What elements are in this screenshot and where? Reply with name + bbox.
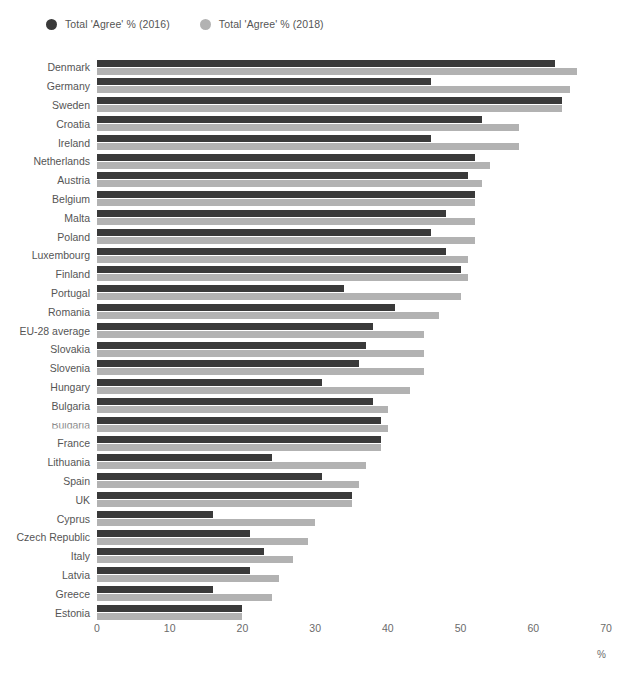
chart-row: Malta [0, 208, 626, 227]
bar-2016 [97, 60, 555, 67]
bar-2016 [97, 266, 461, 273]
bar-2018 [97, 368, 424, 375]
bar-2018 [97, 105, 562, 112]
bar-2018 [97, 86, 570, 93]
chart-row: Spain [0, 472, 626, 491]
bar-group [97, 454, 626, 470]
bar-2016 [97, 342, 366, 349]
bar-2018 [97, 143, 519, 150]
bar-group [97, 191, 626, 207]
chart-row: Denmark [0, 58, 626, 77]
category-label: Spain [63, 476, 90, 487]
chart-row: Ireland [0, 133, 626, 152]
bar-group [97, 172, 626, 188]
bar-group [97, 567, 626, 583]
bar-group [97, 304, 626, 320]
legend-entry-2016: Total 'Agree' % (2016) [46, 18, 170, 30]
bar-group [97, 248, 626, 264]
bar-group [97, 266, 626, 282]
category-label: Ireland [58, 137, 90, 148]
bar-2016 [97, 304, 395, 311]
bar-2016 [97, 360, 359, 367]
bar-2018 [97, 331, 424, 338]
bar-group [97, 492, 626, 508]
chart-row: Bulgaria [0, 415, 626, 434]
category-label: EU-28 average [19, 325, 90, 336]
bar-2016 [97, 154, 475, 161]
bar-group [97, 398, 626, 414]
bar-2016 [97, 379, 322, 386]
bar-2016 [97, 436, 381, 443]
bar-2016 [97, 398, 373, 405]
x-axis: 010203040506070 [0, 622, 626, 642]
chart-row: Estonia [0, 603, 626, 622]
bar-chart-plot-area: DenmarkGermanySwedenCroatiaIrelandNether… [0, 48, 626, 676]
category-label: Cyprus [57, 513, 90, 524]
chart-row: Austria [0, 171, 626, 190]
bar-2018 [97, 613, 242, 620]
chart-row: Belgium [0, 190, 626, 209]
bar-2016 [97, 210, 446, 217]
bar-group [97, 210, 626, 226]
chart-row: Greece [0, 584, 626, 603]
chart-row: Slovenia [0, 359, 626, 378]
bar-2018 [97, 575, 279, 582]
bar-2016 [97, 229, 431, 236]
bar-2018 [97, 199, 475, 206]
bar-group [97, 605, 626, 621]
bar-2018 [97, 274, 468, 281]
chart-row: Lithuania [0, 453, 626, 472]
chart-row: Czech Republic [0, 528, 626, 547]
category-label: UK [75, 494, 90, 505]
bar-group [97, 530, 626, 546]
chart-row: Poland [0, 227, 626, 246]
chart-row: Croatia [0, 114, 626, 133]
bar-2018 [97, 519, 315, 526]
x-axis-tick: 10 [164, 622, 176, 634]
category-label: Austria [57, 175, 90, 186]
x-axis-tick: 40 [382, 622, 394, 634]
category-label: Sweden [52, 100, 90, 111]
bar-group [97, 323, 626, 339]
bar-group [97, 548, 626, 564]
x-axis-tick: 30 [309, 622, 321, 634]
chart-row: Slovakia [0, 340, 626, 359]
x-axis-tick: 70 [600, 622, 612, 634]
category-label: Finland [56, 269, 90, 280]
x-axis-unit-label: % [597, 649, 606, 660]
bar-2018 [97, 180, 482, 187]
category-label: Germany [47, 81, 90, 92]
bar-group [97, 116, 626, 132]
legend-entry-2018: Total 'Agree' % (2018) [200, 18, 324, 30]
bar-group [97, 135, 626, 151]
category-label: Hungary [50, 382, 90, 393]
bar-2018 [97, 481, 359, 488]
category-label: Latvia [62, 570, 90, 581]
bar-2018 [97, 594, 272, 601]
chart-row: Finland [0, 265, 626, 284]
chart-row: Germany [0, 77, 626, 96]
chart-row: Sweden [0, 96, 626, 115]
bar-group [97, 473, 626, 489]
bar-2016 [97, 586, 213, 593]
bar-2016 [97, 454, 272, 461]
category-label: Bulgaria [51, 400, 90, 411]
bar-group [97, 229, 626, 245]
bar-2016 [97, 116, 482, 123]
bar-2018 [97, 124, 519, 131]
category-label: Lithuania [47, 457, 90, 468]
legend-swatch-2016 [46, 19, 57, 30]
x-axis-tick: 20 [237, 622, 249, 634]
category-label: Slovenia [50, 363, 90, 374]
bar-2016 [97, 548, 264, 555]
bar-2018 [97, 462, 366, 469]
bar-2016 [97, 172, 468, 179]
chart-row: France [0, 434, 626, 453]
category-label: Netherlands [33, 156, 90, 167]
bar-group [97, 154, 626, 170]
chart-row: Italy [0, 547, 626, 566]
bar-2016 [97, 567, 250, 574]
bar-2018 [97, 538, 308, 545]
category-label: Denmark [47, 62, 90, 73]
category-label: Belgium [52, 194, 90, 205]
